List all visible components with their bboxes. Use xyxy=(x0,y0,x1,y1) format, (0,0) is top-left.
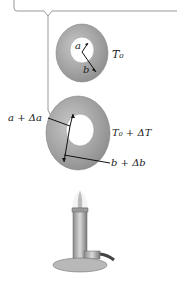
label-b: b xyxy=(83,64,89,75)
callout-box xyxy=(14,0,177,16)
label-a-delta: a + Δa xyxy=(8,112,42,123)
label-b-delta: b + Δb xyxy=(111,157,146,168)
label-a: a xyxy=(75,40,81,51)
label-t0-delta: T₀ + ΔT xyxy=(112,127,151,138)
thermal-expansion-diagram xyxy=(0,0,177,282)
ring-initial xyxy=(56,24,108,82)
label-t0: T₀ xyxy=(112,48,124,61)
ring-heated xyxy=(46,96,110,170)
bunsen-burner xyxy=(53,208,114,272)
